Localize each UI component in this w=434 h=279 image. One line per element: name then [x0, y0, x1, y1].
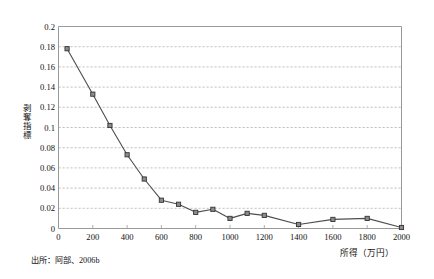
x-tick-label: 1400	[290, 233, 307, 242]
y-axis-title: 剥奪指標	[16, 104, 30, 140]
x-axis-tick-labels: 0200400600800100012001400160018002000	[0, 233, 434, 247]
y-tick-label: 0.18	[26, 42, 55, 51]
x-tick-label: 1200	[256, 233, 273, 242]
y-tick-label: 0.06	[26, 164, 55, 173]
y-tick-label: 0.2	[26, 22, 55, 31]
x-tick-label: 1800	[359, 233, 376, 242]
y-tick-label: 0.02	[26, 204, 55, 213]
x-tick-label: 400	[121, 233, 134, 242]
source-note: 出所：阿部、2006b	[31, 256, 99, 266]
x-tick-label: 0	[56, 233, 60, 242]
x-tick-label: 200	[86, 233, 99, 242]
chart-figure: 00.020.040.060.080.10.120.140.160.180.2 …	[0, 0, 434, 279]
x-tick-label: 600	[155, 233, 168, 242]
x-tick-label: 2000	[393, 233, 410, 242]
x-tick-marks	[93, 225, 402, 229]
data-series-line	[67, 49, 401, 228]
x-tick-label: 1600	[324, 233, 341, 242]
y-tick-label: 0.08	[26, 143, 55, 152]
y-tick-label: 0	[26, 224, 55, 233]
x-tick-label: 800	[189, 233, 202, 242]
y-tick-label: 0.14	[26, 83, 55, 92]
y-tick-label: 0.04	[26, 184, 55, 193]
gridlines	[59, 27, 402, 209]
x-tick-label: 1000	[221, 233, 238, 242]
y-tick-label: 0.16	[26, 63, 55, 72]
data-point-markers	[65, 47, 404, 230]
x-axis-title: 所得（万円）	[340, 248, 394, 258]
